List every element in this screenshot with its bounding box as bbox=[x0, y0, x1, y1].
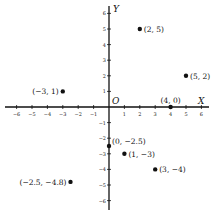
x-tick-label: 4 bbox=[169, 111, 172, 117]
y-tick-label: 3 bbox=[103, 57, 106, 63]
y-tick-label: 6 bbox=[103, 10, 106, 16]
x-tick-label: −5 bbox=[28, 111, 35, 117]
y-tick-label: 1 bbox=[103, 88, 106, 94]
data-point bbox=[153, 167, 157, 171]
x-tick-label: 5 bbox=[184, 111, 187, 117]
y-tick-label: −4 bbox=[99, 166, 106, 172]
x-tick-label: 2 bbox=[138, 111, 141, 117]
x-axis-label: X bbox=[197, 96, 205, 106]
point-label: (0, −2.5) bbox=[112, 137, 146, 146]
origin-label: O bbox=[112, 96, 120, 106]
y-tick-label: −1 bbox=[99, 120, 106, 126]
y-axis-label: Y bbox=[113, 4, 120, 14]
x-tick-label: −3 bbox=[59, 111, 66, 117]
y-tick-label: 4 bbox=[103, 42, 106, 48]
x-tick-label: 6 bbox=[200, 111, 203, 117]
coordinate-plane: −6−5−4−3−2−1123456654321−1−2−3−4−5−6 X Y… bbox=[0, 0, 212, 218]
data-point bbox=[184, 74, 188, 78]
data-point bbox=[61, 89, 65, 93]
y-tick-label: −6 bbox=[99, 198, 106, 204]
point-label: (2, 5) bbox=[144, 25, 164, 34]
data-point bbox=[68, 180, 72, 184]
point-label: (4, 0) bbox=[161, 96, 181, 105]
x-tick-label: 3 bbox=[154, 111, 157, 117]
y-tick-label: −3 bbox=[99, 151, 106, 157]
point-label: (3, −4) bbox=[159, 165, 186, 174]
data-point bbox=[122, 152, 126, 156]
x-tick-label: −2 bbox=[75, 111, 82, 117]
data-point bbox=[168, 105, 172, 109]
data-point bbox=[107, 144, 111, 148]
point-label: (1, −3) bbox=[128, 150, 155, 159]
y-tick-label: 2 bbox=[103, 73, 106, 79]
y-tick-label: −2 bbox=[99, 135, 106, 141]
x-tick-label: 1 bbox=[123, 111, 126, 117]
x-tick-label: −6 bbox=[13, 111, 20, 117]
point-label: (5, 2) bbox=[190, 72, 210, 81]
data-point bbox=[138, 27, 142, 31]
x-tick-label: −4 bbox=[44, 111, 51, 117]
y-tick-label: 5 bbox=[103, 26, 106, 32]
point-label: (−2.5, −4.8) bbox=[19, 178, 66, 187]
point-label: (−3, 1) bbox=[32, 87, 59, 96]
y-tick-label: −5 bbox=[99, 182, 106, 188]
x-tick-label: −1 bbox=[90, 111, 97, 117]
